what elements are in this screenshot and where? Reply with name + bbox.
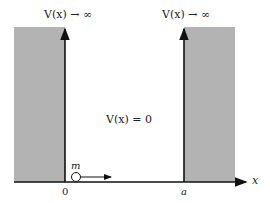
right-wall-region	[184, 27, 235, 182]
particle-mass-label: m	[71, 160, 80, 171]
right-wall-label: V(x) → ∞	[162, 8, 210, 21]
left-wall-region	[14, 27, 65, 182]
particle-icon	[72, 173, 81, 182]
inside-potential-label: V(x) = 0	[106, 113, 152, 126]
axis-label: x	[252, 174, 258, 187]
left-wall-label: V(x) → ∞	[44, 8, 92, 21]
infinite-square-well-diagram	[0, 0, 270, 203]
right-edge-label: a	[181, 186, 187, 197]
origin-label: 0	[62, 186, 68, 197]
